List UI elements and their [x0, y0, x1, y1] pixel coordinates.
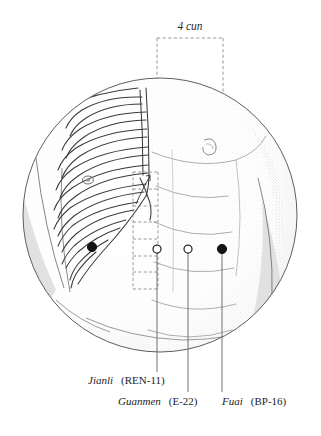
label-bp-16-name: Fuai — [221, 395, 243, 407]
label-bp-16: Fuai (BP-16) — [221, 391, 287, 408]
figure-root: 4 cun — [0, 0, 321, 436]
label-ren-11-name: Jianli — [88, 374, 113, 386]
label-e-22-name: Guanmen — [118, 395, 161, 407]
point-marker-e-22[interactable] — [184, 245, 192, 253]
label-ren-11: Jianli (REN-11) — [88, 370, 165, 387]
anatomical-illustration: 4 cun — [0, 0, 321, 436]
measure-label: 4 cun — [177, 20, 202, 32]
label-e-22-code: (E-22) — [169, 395, 198, 408]
point-marker-rib-reference[interactable] — [87, 242, 96, 251]
point-marker-ren-11[interactable] — [153, 245, 161, 253]
label-bp-16-code: (BP-16) — [251, 395, 287, 408]
point-labels: Jianli (REN-11) Guanmen (E-22) Fuai (BP-… — [88, 370, 287, 408]
label-ren-11-code: (REN-11) — [121, 374, 165, 387]
torso-vignette — [23, 78, 297, 352]
point-marker-bp-16[interactable] — [217, 244, 226, 253]
measurement-bracket: 4 cun — [157, 20, 223, 38]
label-e-22: Guanmen (E-22) — [118, 391, 198, 408]
